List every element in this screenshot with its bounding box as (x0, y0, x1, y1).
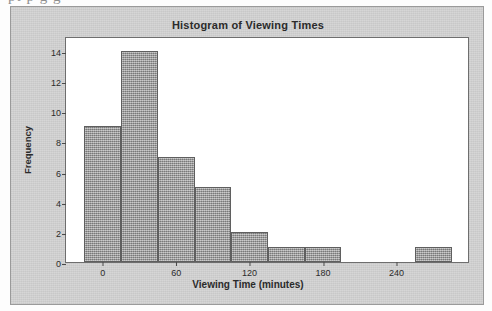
histogram-bar (415, 247, 452, 262)
histogram-bar (268, 247, 305, 262)
histogram-bar (231, 232, 268, 262)
y-tick-label: 14 (51, 48, 66, 58)
y-tick-label: 0 (56, 259, 66, 269)
histogram-bar (195, 187, 232, 262)
plot-area: 02468101214 060120180240 (65, 37, 469, 263)
x-tick-label: 60 (171, 262, 181, 278)
y-tick-label: 12 (51, 78, 66, 88)
histogram-figure: Histogram of Viewing Times Frequency 024… (10, 6, 484, 305)
histogram-bar (158, 157, 195, 262)
y-tick-label: 10 (51, 108, 66, 118)
x-axis-label: Viewing Time (minutes) (11, 279, 485, 290)
x-tick-label: 180 (316, 262, 331, 278)
histogram-bar (305, 247, 342, 262)
histogram-bar (121, 51, 158, 262)
x-tick-label: 120 (242, 262, 257, 278)
scanned-page: pt p g g Histogram of Viewing Times Freq… (0, 0, 492, 311)
y-tick-label: 2 (56, 229, 66, 239)
y-tick-label: 6 (56, 169, 66, 179)
chart-title: Histogram of Viewing Times (11, 19, 485, 31)
x-tick-label: 0 (100, 262, 105, 278)
y-tick-label: 8 (56, 138, 66, 148)
x-tick-label: 240 (389, 262, 404, 278)
y-tick-label: 4 (56, 199, 66, 209)
y-axis-label: Frequency (22, 126, 33, 174)
histogram-bar (84, 126, 121, 262)
